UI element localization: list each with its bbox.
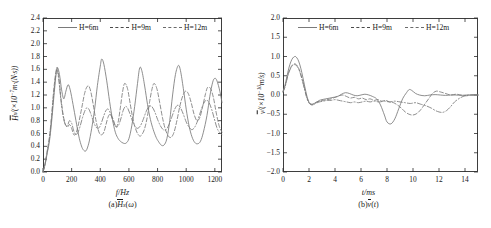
- panel-b-caption: (b)v(t): [246, 200, 491, 209]
- figure-container: Hx/(×10−7m·(N·s)) H=6m H=9m H=12m: [0, 0, 491, 228]
- legend-line-dashdot-icon: [163, 27, 182, 29]
- panel-a-x-axis-title: f/Hz: [0, 188, 245, 197]
- panel-a-svg: [43, 18, 222, 172]
- panel-a-x-axis-text: f/Hz: [116, 188, 129, 197]
- panel-b-curves: [283, 56, 478, 124]
- panel-b-svg: [283, 18, 478, 172]
- legend-line-dashdot-icon-b: [405, 27, 424, 29]
- legend-line-dashed-icon: [110, 27, 129, 29]
- y-tick-label: 1.2: [9, 90, 40, 99]
- panel-a-curves: [43, 59, 222, 172]
- legend-item-h9-b: H=9m: [351, 23, 391, 32]
- y-tick-label: 0.5: [249, 71, 280, 80]
- series-line-H12m: [43, 70, 222, 172]
- legend-label-h6: H=6m: [79, 23, 98, 32]
- y-tick-label: 1.4: [9, 77, 40, 86]
- y-tick-label: 0.6: [9, 129, 40, 138]
- y-tick-label: 0.2: [9, 154, 40, 163]
- legend-label-h12: H=12m: [184, 23, 207, 32]
- y-tick-label: 1.8: [9, 52, 40, 61]
- y-tick-label: 1.0: [249, 52, 280, 61]
- y-tick-label: 2.4: [9, 13, 40, 22]
- y-tick-label: 2.0: [249, 13, 280, 22]
- legend-line-solid-icon-b: [298, 27, 317, 29]
- panel-b-legend: H=6m H=9m H=12m: [298, 23, 449, 32]
- legend-item-h6-b: H=6m: [298, 23, 338, 32]
- panel-a-ticks: [43, 18, 222, 172]
- x-tick-label: 1200: [195, 175, 235, 184]
- legend-label-h12-b: H=12m: [426, 23, 449, 32]
- y-tick-label: −0.5: [249, 109, 280, 118]
- panel-a-frame: [44, 19, 222, 172]
- legend-item-h12: H=12m: [163, 23, 207, 32]
- y-tick-label: 2.2: [9, 26, 40, 35]
- y-tick-label: 0.0: [249, 90, 280, 99]
- panel-b-plot: [283, 18, 478, 172]
- panel-a: Hx/(×10−7m·(N·s)) H=6m H=9m H=12m: [0, 0, 245, 228]
- y-tick-label: −2.0: [249, 167, 280, 176]
- x-tick-label: 14: [445, 175, 485, 184]
- panel-b: v/(×10−10m/s) H=6m H=9m H=12m: [246, 0, 491, 228]
- legend-line-dashed-icon-b: [351, 27, 370, 29]
- y-tick-label: 2.0: [9, 39, 40, 48]
- y-tick-label: 0.0: [9, 167, 40, 176]
- legend-label-h9-b: H=9m: [372, 23, 391, 32]
- legend-label-h6-b: H=6m: [319, 23, 338, 32]
- series-line-H6m: [43, 59, 222, 172]
- panel-a-caption: (a)Hx(ω): [0, 200, 245, 209]
- y-tick-label: 1.0: [9, 103, 40, 112]
- y-tick-label: 1.6: [9, 64, 40, 73]
- panel-b-x-axis-text: t/ms: [362, 188, 375, 197]
- legend-item-h9: H=9m: [110, 23, 150, 32]
- y-tick-label: −1.5: [249, 148, 280, 157]
- series-line-H9m: [283, 64, 478, 115]
- y-tick-label: −1.0: [249, 129, 280, 138]
- series-line-H6m: [283, 56, 478, 124]
- panel-a-legend: H=6m H=9m H=12m: [58, 23, 207, 32]
- legend-item-h12-b: H=12m: [405, 23, 449, 32]
- legend-line-solid-icon: [58, 27, 77, 29]
- y-tick-label: 0.8: [9, 116, 40, 125]
- y-tick-label: 0.4: [9, 141, 40, 150]
- legend-label-h9: H=9m: [131, 23, 150, 32]
- panel-b-x-axis-title: t/ms: [246, 188, 491, 197]
- legend-item-h6: H=6m: [58, 23, 98, 32]
- y-tick-label: 1.5: [249, 32, 280, 41]
- panel-a-plot: [43, 18, 222, 172]
